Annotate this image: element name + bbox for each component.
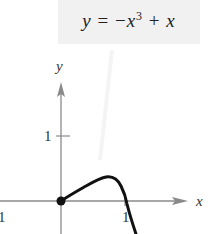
chart-plot: x y 1 1 1 <box>0 0 214 234</box>
x-tick-label-1: 1 <box>122 209 130 225</box>
origin-point <box>57 197 66 206</box>
x-tick-label-neg1: 1 <box>0 209 6 225</box>
x-axis-label: x <box>195 193 203 209</box>
scan-artifact <box>100 50 112 160</box>
y-axis-label: y <box>54 58 63 74</box>
y-tick-label-1: 1 <box>44 128 52 144</box>
